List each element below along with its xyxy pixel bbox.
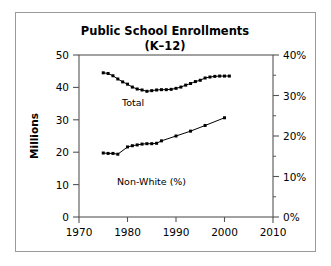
data-point-marker: [175, 87, 178, 90]
data-point-marker: [155, 88, 158, 91]
series-non-white-line: [102, 116, 226, 155]
data-point-marker: [107, 152, 110, 155]
data-point-marker: [126, 83, 129, 86]
series-label-non-white: Non-White (%): [117, 176, 186, 187]
series-path: [103, 118, 224, 154]
data-point-marker: [218, 75, 221, 78]
data-point-marker: [116, 77, 119, 80]
data-point-marker: [160, 88, 163, 91]
data-point-marker: [155, 142, 158, 145]
data-point-marker: [204, 77, 207, 80]
data-point-marker: [179, 86, 182, 89]
data-point-marker: [228, 75, 231, 78]
x-axis-labels: 1970 1980 1990 2000 2010: [66, 226, 287, 238]
data-point-marker: [116, 153, 119, 156]
data-point-marker: [160, 139, 163, 142]
data-point-marker: [126, 145, 129, 148]
data-point-marker: [170, 88, 173, 91]
data-point-marker: [136, 88, 139, 91]
series-total-line: [102, 71, 231, 92]
x-tick-label-2010: 2010: [260, 226, 287, 238]
y2-tick-label-40: 40%: [283, 49, 306, 61]
data-point-marker: [223, 75, 226, 78]
y-tick-label-30: 30: [56, 114, 69, 126]
y-tick-label-10: 10: [56, 179, 69, 191]
data-point-marker: [102, 71, 105, 74]
data-point-marker: [136, 143, 139, 146]
y-tick-label-20: 20: [56, 146, 69, 158]
data-point-marker: [107, 72, 110, 75]
data-point-marker: [145, 142, 148, 145]
x-tick-label-1980: 1980: [114, 226, 141, 238]
data-point-marker: [131, 86, 134, 89]
data-point-marker: [204, 124, 207, 127]
x-axis-ticks: [79, 217, 273, 223]
series-label-total: Total: [121, 97, 144, 108]
y2-tick-label-30: 30%: [283, 90, 306, 102]
y2-tick-label-10: 10%: [283, 171, 306, 183]
y2-tick-label-20: 20%: [283, 130, 306, 142]
data-point-marker: [141, 143, 144, 146]
data-point-marker: [111, 74, 114, 77]
data-point-marker: [165, 88, 168, 91]
y-tick-label-50: 50: [56, 49, 69, 61]
chart-title: Public School Enrollments: [81, 24, 250, 38]
y-axis-left-ticks: [73, 55, 79, 217]
y-tick-label-0: 0: [62, 211, 69, 223]
data-point-marker: [199, 79, 202, 82]
data-point-marker: [223, 116, 226, 119]
data-point-marker: [141, 88, 144, 91]
data-point-marker: [131, 144, 134, 147]
data-point-marker: [189, 130, 192, 133]
data-point-marker: [102, 152, 105, 155]
data-point-marker: [194, 80, 197, 83]
x-tick-label-2000: 2000: [211, 226, 238, 238]
data-point-marker: [111, 152, 114, 155]
data-point-marker: [208, 76, 211, 79]
x-tick-label-1990: 1990: [163, 226, 190, 238]
x-tick-label-1970: 1970: [66, 226, 93, 238]
data-point-marker: [184, 84, 187, 87]
y2-tick-label-0: 0%: [283, 211, 300, 223]
y-tick-label-40: 40: [56, 81, 69, 93]
data-point-marker: [150, 89, 153, 92]
data-point-marker: [121, 80, 124, 83]
data-point-marker: [189, 82, 192, 85]
data-point-marker: [175, 135, 178, 138]
data-point-marker: [150, 142, 153, 145]
y-axis-title: Millions: [28, 113, 40, 159]
data-point-marker: [145, 90, 148, 93]
data-point-marker: [213, 75, 216, 78]
y-axis-right-ticks: [273, 55, 279, 217]
chart-subtitle: (K–12): [144, 39, 185, 53]
y-axis-right-labels: 40% 30% 20% 10% 0%: [283, 49, 306, 223]
y-axis-left-labels: 50 40 30 20 10 0: [56, 49, 69, 223]
public-school-enrollments-chart: Public School Enrollments (K–12) 50 40 3…: [16, 13, 315, 251]
chart-figure: Public School Enrollments (K–12) 50 40 3…: [15, 12, 316, 252]
